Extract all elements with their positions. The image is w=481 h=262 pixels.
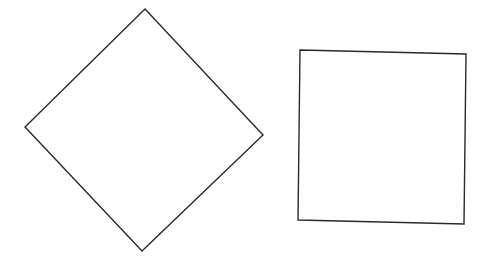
square-shape: [298, 50, 466, 224]
diamond-shape: [25, 9, 263, 251]
diagram-canvas: [0, 0, 481, 262]
